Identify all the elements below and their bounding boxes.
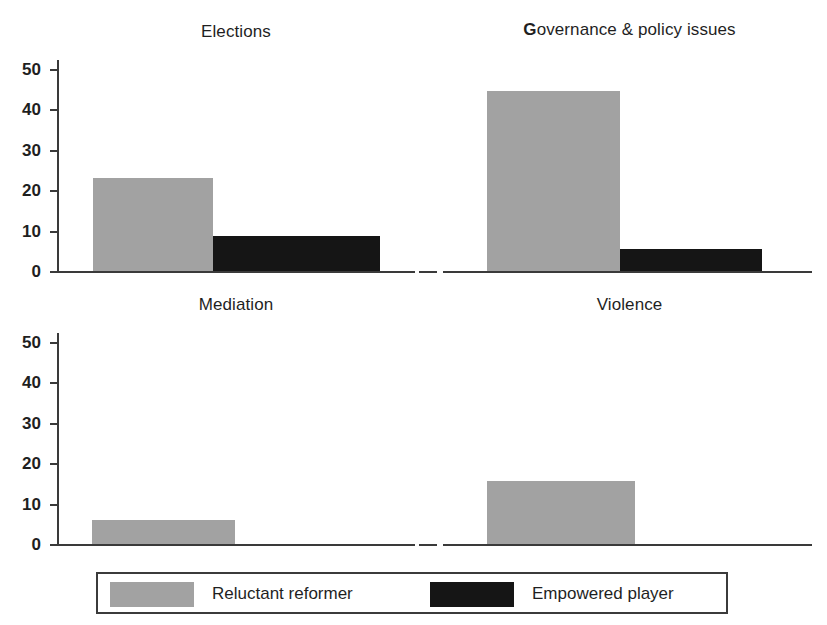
legend-item-empowered-player: Empowered player (430, 580, 674, 608)
x-axis-baseline-stub (419, 544, 437, 546)
legend-swatch-icon (430, 582, 514, 607)
chart-canvas: Elections01020304050Governance & policy … (0, 0, 827, 625)
legend-item-reluctant-reformer: Reluctant reformer (110, 580, 353, 608)
panel-title-violence: Violence (447, 295, 812, 315)
bar-violence-reluctant-reformer (487, 481, 635, 544)
panel-violence: Violence (0, 0, 827, 625)
legend-label: Empowered player (532, 584, 674, 604)
chart-legend: Reluctant reformerEmpowered player (96, 572, 728, 614)
panel-title-text: Violence (597, 295, 663, 314)
x-axis-baseline (443, 544, 812, 546)
legend-swatch-icon (110, 582, 194, 607)
legend-label: Reluctant reformer (212, 584, 353, 604)
